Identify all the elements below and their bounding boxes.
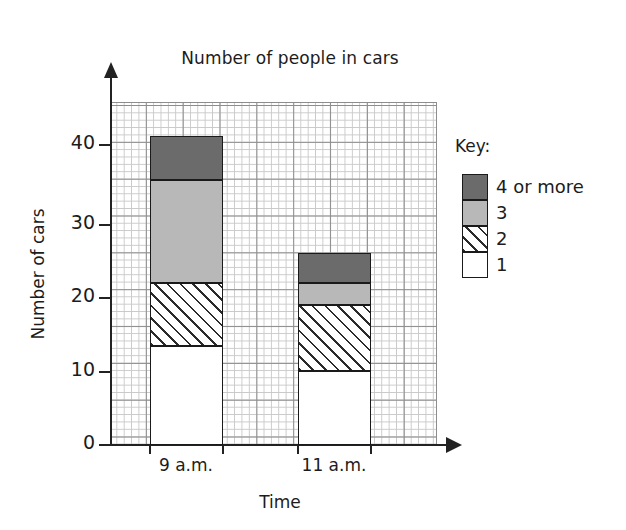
bar-11am-segment-4-or-more xyxy=(298,253,371,283)
x-tick-label-9am: 9 a.m. xyxy=(116,455,256,475)
y-tick-mark-40 xyxy=(99,144,111,146)
x-tick-mark-3 xyxy=(297,444,299,454)
y-tick-mark-20 xyxy=(99,297,111,299)
bar-9am-segment-4-or-more xyxy=(150,136,223,180)
y-axis-arrow-icon xyxy=(104,62,118,78)
y-axis-title: Number of cars xyxy=(28,174,48,374)
y-tick-mark-30 xyxy=(99,224,111,226)
x-tick-label-11am: 11 a.m. xyxy=(264,455,404,475)
legend-swatch-1 xyxy=(462,252,488,278)
legend-label-4-or-more: 4 or more xyxy=(496,176,584,197)
x-axis-title: Time xyxy=(190,492,370,512)
bar-11am-segment-2 xyxy=(298,305,371,371)
chart-figure: Number of people in cars 40 30 20 10 0 N… xyxy=(0,0,626,530)
legend-item-1: 1 xyxy=(462,252,488,278)
legend-label-2: 2 xyxy=(496,228,507,249)
bar-11am-segment-1 xyxy=(298,371,371,445)
legend-swatch-2 xyxy=(462,226,488,252)
y-tick-mark-10 xyxy=(99,371,111,373)
legend-label-3: 3 xyxy=(496,202,507,223)
x-tick-mark-1 xyxy=(149,444,151,454)
legend: Key: 4 or more 3 2 1 xyxy=(455,136,625,168)
bar-9am-segment-3 xyxy=(150,180,223,283)
legend-item-2: 2 xyxy=(462,226,488,252)
legend-item-4-or-more: 4 or more xyxy=(462,174,488,200)
chart-title: Number of people in cars xyxy=(150,48,430,68)
x-tick-mark-4 xyxy=(370,444,372,454)
bar-9am-segment-1 xyxy=(150,346,223,445)
x-axis-arrow-icon xyxy=(446,437,462,453)
bar-11am-segment-3 xyxy=(298,283,371,305)
legend-swatch-4-or-more xyxy=(462,174,488,200)
x-tick-mark-2 xyxy=(222,444,224,454)
bar-9am-segment-2 xyxy=(150,283,223,346)
y-axis-line xyxy=(110,75,112,446)
legend-swatch-stack: 4 or more 3 2 1 xyxy=(462,174,488,278)
legend-item-3: 3 xyxy=(462,200,488,226)
legend-swatch-3 xyxy=(462,200,488,226)
legend-title: Key: xyxy=(455,136,625,156)
legend-label-1: 1 xyxy=(496,254,507,275)
